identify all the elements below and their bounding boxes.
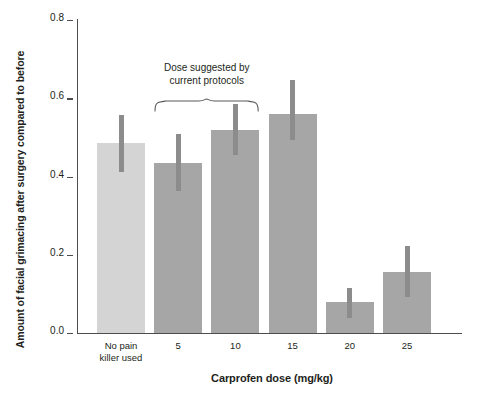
bar <box>211 130 259 333</box>
y-axis-tick-label: 0.6 <box>50 90 64 101</box>
error-bar <box>119 115 124 172</box>
y-axis-tick-mark <box>67 177 73 178</box>
error-bar <box>405 246 410 296</box>
bar-chart-figure: Amount of facial grimacing after surgery… <box>0 0 478 399</box>
y-axis-label-text: Amount of facial grimacing after surgery… <box>14 51 27 349</box>
y-axis-tick-mark <box>67 333 73 334</box>
x-axis-label: Carprofen dose (mg/kg) <box>77 372 467 384</box>
error-bar <box>290 80 295 140</box>
x-axis-line <box>77 333 462 334</box>
annotation-label: Dose suggested by current protocols <box>137 62 277 87</box>
error-bar <box>347 288 352 318</box>
y-axis-tick-label: 0.0 <box>50 325 64 336</box>
x-axis-tick-label: 25 <box>362 340 452 352</box>
y-axis-tick-mark <box>67 98 73 99</box>
curly-brace-icon <box>154 98 259 112</box>
y-axis-tick-label: 0.2 <box>50 247 64 258</box>
error-bar <box>176 134 181 191</box>
y-axis-tick-mark <box>67 255 73 256</box>
y-axis-label: Amount of facial grimacing after surgery… <box>0 0 40 399</box>
bar <box>269 114 317 333</box>
y-axis-tick-label: 0.4 <box>50 169 64 180</box>
y-axis-tick-mark <box>67 20 73 21</box>
y-axis-tick-label: 0.8 <box>50 12 64 23</box>
